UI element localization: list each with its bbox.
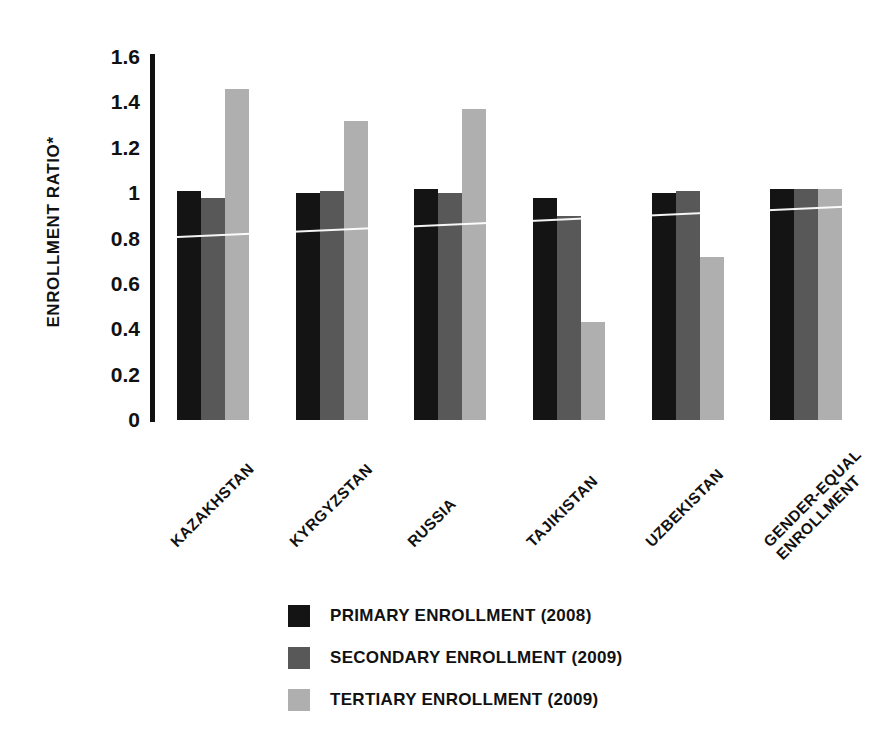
bar-primary [770,189,794,420]
y-axis-tick-label: 0.8 [78,228,140,249]
y-axis-tick-label: 1.6 [78,46,140,67]
bar-primary [296,193,320,420]
legend-item[interactable]: SECONDARY ENROLLMENT (2009) [288,642,708,674]
bar-group [770,57,842,420]
y-axis-title: ENROLLMENT RATIO* [44,82,64,382]
bar-secondary [557,216,581,420]
bar-secondary [201,198,225,420]
bar-tertiary [225,89,249,420]
bar-tertiary [818,189,842,420]
legend-item[interactable]: TERTIARY ENROLLMENT (2009) [288,684,708,716]
x-axis-category-label: KYRGYZSTAN [286,460,376,550]
bar-tertiary [700,257,724,420]
legend-color-swatch [288,689,310,711]
bar-group [652,57,724,420]
y-axis-tick-label: 1 [78,182,140,203]
bar-primary [652,193,676,420]
bar-group [177,57,249,420]
bar-primary [533,198,557,420]
bar-secondary [676,191,700,420]
bar-primary [177,191,201,420]
legend-item-label: TERTIARY ENROLLMENT (2009) [330,690,599,710]
legend-item-label: SECONDARY ENROLLMENT (2009) [330,648,622,668]
y-axis-tick-label: 1.4 [78,91,140,112]
x-axis-category-label: TAJIKISTAN [523,472,602,551]
x-axis-category-label: GENDER-EQUAL ENROLLMENT [760,446,878,564]
legend-item[interactable]: PRIMARY ENROLLMENT (2008) [288,600,708,632]
bar-tertiary [344,121,368,420]
legend-item-label: PRIMARY ENROLLMENT (2008) [330,606,592,626]
legend-color-swatch [288,605,310,627]
enrollment-ratio-bar-chart: ENROLLMENT RATIO* 00.20.40.60.811.21.41.… [0,0,882,756]
bar-group [296,57,368,420]
bar-primary [414,189,438,420]
y-axis-tick-label: 1.2 [78,137,140,158]
y-axis-tick-label: 0.6 [78,273,140,294]
chart-legend: PRIMARY ENROLLMENT (2008)SECONDARY ENROL… [288,600,708,726]
bar-secondary [794,189,818,420]
x-axis-category-label: RUSSIA [404,495,460,551]
gender-parity-reference-line [155,205,866,239]
bar-group [414,57,486,420]
bar-secondary [438,193,462,420]
x-axis-category-label: UZBEKISTAN [642,465,728,551]
x-axis-category-label: KAZAKHSTAN [167,460,258,551]
y-axis-tick-labels: 00.20.40.60.811.21.41.6 [78,0,140,430]
bar-tertiary [581,322,605,420]
bar-secondary [320,191,344,420]
plot-area [155,57,867,420]
y-axis-tick-label: 0.4 [78,318,140,339]
y-axis-tick-label: 0.2 [78,364,140,385]
bar-tertiary [462,109,486,420]
y-axis-tick-label: 0 [78,409,140,430]
legend-color-swatch [288,647,310,669]
bar-group [533,57,605,420]
